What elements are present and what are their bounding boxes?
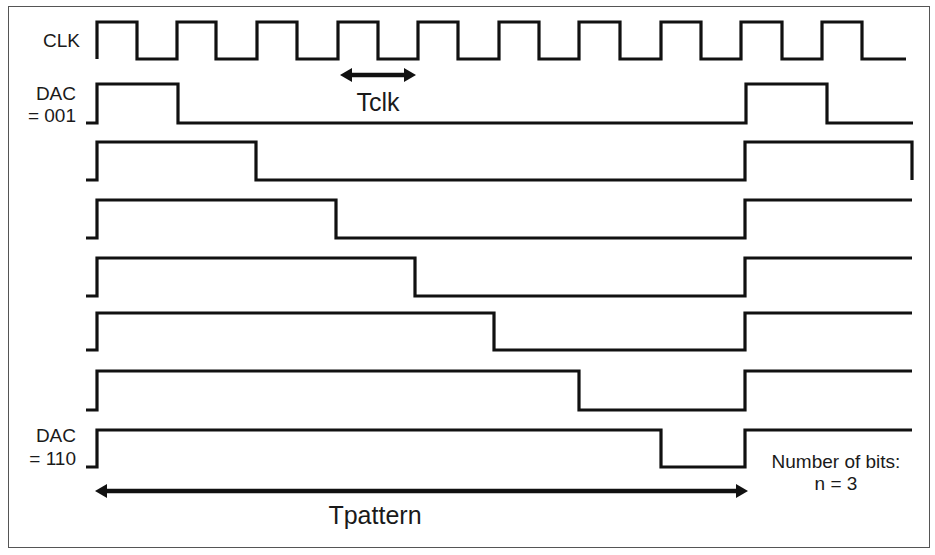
dac-first-label-line2: = 001 [10,106,76,125]
bits-label-line2: n = 3 [756,474,916,493]
tpattern-label: Tpattern [300,503,450,528]
dac-signal-row-2 [86,142,912,180]
bits-label-line1: Number of bits: [756,452,916,471]
timing-diagram: CLK DAC = 001 DAC = 110 Tclk Tpattern Nu… [0,0,935,555]
arrowhead-right-icon [736,484,748,498]
dac-waveforms [86,84,913,467]
period-arrows [95,68,748,498]
tclk-arrow [340,68,416,82]
clk-label: CLK [20,31,80,50]
arrowhead-left-icon [95,484,107,498]
dac-last-label-line2: = 110 [10,449,76,468]
dac-signal-row-5 [86,313,912,350]
tclk-label: Tclk [338,90,418,115]
dac-last-label-line1: DAC [20,426,76,445]
dac-signal-row-1 [86,84,913,123]
arrowhead-left-icon [340,68,352,82]
dac-signal-row-3 [86,200,912,238]
dac-signal-row-4 [86,258,912,296]
tpattern-arrow [95,484,748,498]
clock-waveform [97,22,906,59]
dac-first-label-line1: DAC [20,84,76,103]
arrowhead-right-icon [404,68,416,82]
clock-signal [97,22,906,59]
dac-signal-row-6 [86,371,912,410]
